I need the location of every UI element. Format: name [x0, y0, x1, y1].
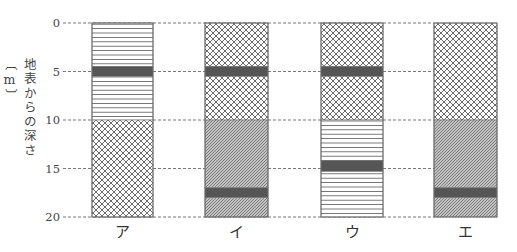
y-tick-label-0: 0 — [38, 17, 60, 29]
column-3 — [321, 23, 383, 217]
column-label-u: ウ — [345, 224, 360, 240]
layer-solid-dark — [205, 188, 268, 198]
column-4 — [434, 23, 497, 217]
stratigraphic-diagram: 地表からの深さ〔m〕 0 5 10 15 20 ア イ ウ エ — [0, 0, 517, 252]
layer-diagonal-hatch — [434, 120, 497, 188]
y-tick-label-15: 15 — [38, 163, 60, 175]
layer-solid-dark — [434, 188, 497, 198]
y-tick-label-5: 5 — [38, 66, 60, 78]
column-label-a: ア — [115, 224, 130, 240]
y-tick-label-10: 10 — [38, 114, 60, 126]
layer-horizontal-lines — [92, 23, 153, 67]
diagram-graphics — [0, 0, 517, 252]
layer-horizontal-lines — [92, 76, 153, 120]
column-2 — [205, 23, 268, 217]
layer-horizontal-lines — [321, 171, 383, 217]
column-label-i: イ — [229, 224, 244, 240]
layer-solid-dark — [205, 67, 268, 77]
layer-cross-hatch — [92, 120, 153, 217]
layer-cross-hatch — [205, 76, 268, 120]
layer-solid-dark — [92, 67, 153, 77]
layer-horizontal-lines — [321, 120, 383, 161]
layer-cross-hatch — [321, 76, 383, 120]
column-1 — [92, 23, 153, 217]
layer-cross-hatch — [205, 23, 268, 67]
y-tick-label-20: 20 — [38, 211, 60, 223]
layer-solid-dark — [321, 161, 383, 172]
layer-cross-hatch — [321, 23, 383, 67]
layer-diagonal-hatch — [205, 120, 268, 188]
layer-cross-hatch — [434, 23, 497, 120]
y-axis-title: 地表からの深さ〔m〕 — [22, 58, 38, 188]
layer-solid-dark — [321, 67, 383, 77]
layer-diagonal-hatch — [434, 198, 497, 217]
column-label-e: エ — [458, 224, 473, 240]
layer-diagonal-hatch — [205, 198, 268, 217]
